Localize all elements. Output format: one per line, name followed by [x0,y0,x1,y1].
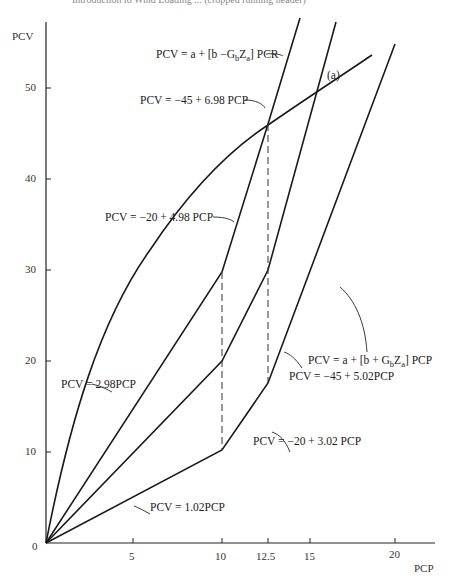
x-tick-label: 12.5 [256,550,276,562]
x-axis-label: PCP [414,562,434,574]
annotation-minus45-698: PCV = −45 + 6.98 PCP [140,94,248,106]
annotation-298: PCV = 2.98PCP [61,378,136,390]
annotation-minus20-498: PCV = −20 + 4.98 PCP [105,211,213,223]
x-ticks [133,538,395,543]
series-lower [46,44,395,543]
annotation-b-minus: PCV = a + [b −GbZa] PCR [156,48,279,63]
y-tick-label: 20 [25,354,37,366]
annotation-minus20-302: PCV = −20 + 3.02 PCP [253,435,361,447]
y-tick-label: 50 [25,81,37,93]
origin-label: 0 [32,540,38,552]
y-ticks [46,88,51,452]
chart: 10 20 30 40 50 0 PCV 5 10 12.5 15 20 PCP [0,0,449,583]
x-tick-label: 15 [304,550,316,562]
y-tick-label: 40 [25,172,37,184]
y-axis-label: PCV [12,30,33,42]
x-tick-label: 5 [129,550,135,562]
x-tick-label: 20 [389,548,401,560]
annotation-102: PCV = 1.02PCP [150,501,225,513]
annotation-point-a: (a) [327,69,340,82]
y-tick-label: 30 [25,263,37,275]
series-curve-upper [46,55,372,543]
y-tick-label: 10 [25,445,37,457]
annotation-minus45-502: PCV = −45 + 5.02PCP [289,370,394,382]
annotation-b-plus: PCV = a + [b + GbZa] PCP [308,354,432,369]
x-tick-label: 10 [215,550,227,562]
